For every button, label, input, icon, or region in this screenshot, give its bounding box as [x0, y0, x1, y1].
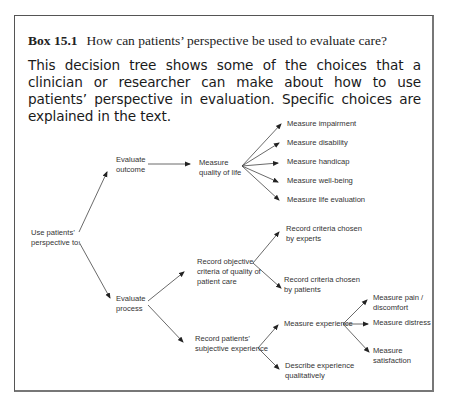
- svg-text:process: process: [116, 304, 143, 313]
- node-record-objective: Record objective criteria of quality of …: [197, 257, 262, 286]
- svg-text:Measure: Measure: [373, 346, 403, 355]
- svg-text:criteria of quality of: criteria of quality of: [197, 267, 262, 276]
- svg-text:by experts: by experts: [286, 234, 321, 243]
- svg-text:Use patients’: Use patients’: [31, 228, 75, 237]
- leaf-disability: Measure disability: [287, 138, 348, 147]
- svg-text:Evaluate: Evaluate: [116, 155, 146, 164]
- svg-text:patient care: patient care: [197, 277, 237, 286]
- leaf-well-being: Measure well-being: [287, 176, 353, 185]
- edge-objective-experts: [253, 232, 279, 263]
- edge-experience-pain: [343, 300, 367, 324]
- edge-process-subjective: [148, 305, 183, 342]
- svg-text:Measure experience: Measure experience: [284, 319, 353, 328]
- svg-text:outcome: outcome: [116, 165, 145, 174]
- node-record-subjective: Record patients’ subjective experience: [195, 334, 268, 353]
- leaf-impairment: Measure impairment: [287, 119, 357, 128]
- svg-text:Measure: Measure: [199, 158, 229, 167]
- node-pain: Measure pain / discomfort: [373, 293, 424, 312]
- node-measure-qol: Measure quality of life: [199, 158, 241, 177]
- svg-text:Record criteria chosen: Record criteria chosen: [286, 224, 362, 233]
- edge-process-objective: [148, 272, 184, 301]
- node-distress: Measure distress: [373, 318, 431, 327]
- leaf-life-evaluation: Measure life evaluation: [287, 195, 365, 204]
- svg-text:Record patients’: Record patients’: [195, 334, 250, 343]
- edges-qol-children: [242, 124, 281, 200]
- svg-text:discomfort: discomfort: [373, 303, 409, 312]
- decision-tree: Use patients’ perspective to: Evaluate o…: [0, 0, 453, 412]
- node-describe-qualitative: Describe experience qualitatively: [285, 361, 354, 380]
- node-evaluate-outcome: Evaluate outcome: [116, 155, 146, 174]
- edge-experience-satisfaction: [343, 324, 369, 352]
- svg-text:Record objective: Record objective: [197, 257, 254, 266]
- svg-text:Measure pain /: Measure pain /: [373, 293, 424, 302]
- node-criteria-experts: Record criteria chosen by experts: [286, 224, 362, 243]
- svg-text:Measure distress: Measure distress: [373, 318, 431, 327]
- svg-text:Evaluate: Evaluate: [116, 294, 146, 303]
- edge-subjective-describe: [258, 348, 279, 369]
- svg-text:Record criteria chosen: Record criteria chosen: [284, 275, 360, 284]
- svg-text:quality of life: quality of life: [199, 168, 241, 177]
- node-satisfaction: Measure satisfaction: [373, 346, 411, 365]
- svg-text:Describe experience: Describe experience: [285, 361, 354, 370]
- svg-text:qualitatively: qualitatively: [285, 371, 325, 380]
- node-evaluate-process: Evaluate process: [116, 294, 146, 313]
- node-root: Use patients’ perspective to:: [31, 228, 80, 247]
- edge-root-process: [79, 242, 110, 298]
- node-criteria-patients: Record criteria chosen by patients: [284, 275, 360, 294]
- svg-text:perspective to:: perspective to:: [31, 238, 80, 247]
- svg-text:satisfaction: satisfaction: [373, 356, 411, 365]
- qol-children: Measure impairment Measure disability Me…: [287, 119, 365, 204]
- node-measure-experience: Measure experience: [284, 319, 353, 328]
- leaf-handicap: Measure handicap: [287, 157, 349, 166]
- svg-text:by patients: by patients: [284, 285, 321, 294]
- edge-root-outcome: [79, 172, 107, 232]
- svg-text:subjective experience: subjective experience: [195, 344, 268, 353]
